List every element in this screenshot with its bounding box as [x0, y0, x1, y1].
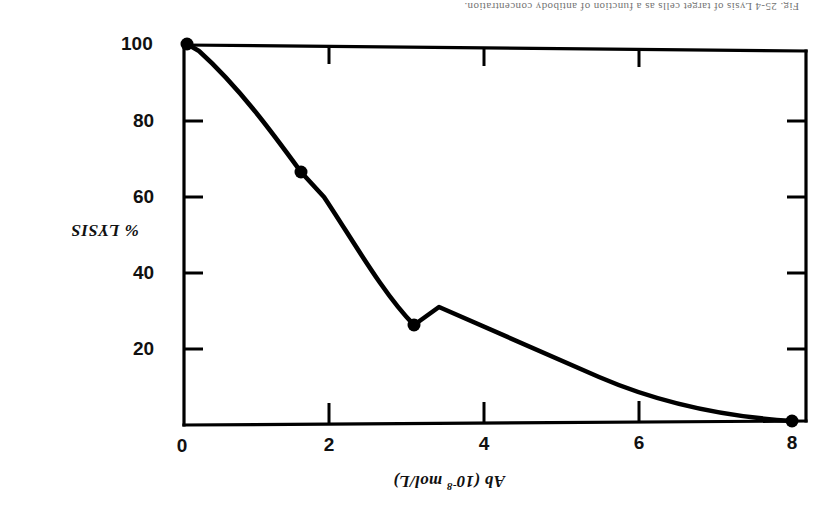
x-tick-label-8: 8 — [787, 432, 798, 453]
lysis-curve — [187, 44, 792, 421]
x-tick-labels: 8 6 4 2 0 — [177, 432, 798, 456]
y-axis-ticks — [184, 121, 203, 349]
y-tick-label-60: 60 — [133, 186, 154, 207]
data-point-markers — [181, 38, 799, 428]
y-tick-label-100: 100 — [121, 33, 153, 54]
frame-top-edge — [184, 421, 806, 425]
y-tick-label-40: 40 — [133, 262, 154, 283]
plot-frame — [184, 45, 806, 425]
data-point-ab-8 — [786, 415, 799, 428]
x-tick-label-4: 4 — [479, 433, 490, 454]
figure-stage: Ab (10-8 mol/L) % LYSIS — [0, 0, 839, 517]
data-point-ab-1-5 — [295, 166, 308, 179]
y-axis-ticks-mirror — [787, 121, 806, 349]
data-point-ab-3-3 — [408, 319, 421, 332]
y-tick-label-20: 20 — [133, 338, 154, 359]
frame-bottom-edge — [184, 45, 806, 51]
lysis-vs-antibody-chart: 8 6 4 2 0 20 40 60 80 100 — [0, 0, 839, 517]
x-tick-label-6: 6 — [634, 432, 645, 453]
x-tick-label-2: 2 — [324, 434, 335, 455]
data-point-ab-0-1 — [181, 38, 194, 51]
y-tick-label-80: 80 — [133, 110, 154, 131]
x-tick-label-0: 0 — [177, 435, 188, 456]
figure-caption: Fig. 25-4 Lysis of target cells as a fun… — [39, 2, 799, 13]
y-tick-labels: 20 40 60 80 100 — [121, 33, 154, 359]
x-axis-ticks — [329, 401, 639, 424]
